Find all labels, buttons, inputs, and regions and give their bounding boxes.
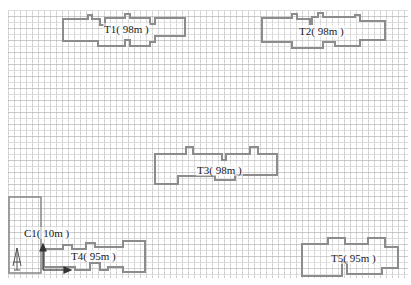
north-arrow-icon	[13, 248, 21, 270]
building-t4-label: T4( 95m )	[70, 250, 117, 262]
building-t5-label: T5( 95m )	[330, 252, 377, 264]
building-t2-label: T2( 98m )	[298, 25, 345, 37]
building-t1-label: T1( 98m )	[103, 23, 150, 35]
building-outlines	[0, 0, 411, 285]
site-plan-canvas: T1( 98m ) T2( 98m ) T3( 98m ) T4( 95m ) …	[0, 0, 411, 285]
crane-c1-label: C1( 10m )	[23, 227, 70, 239]
building-t3-label: T3( 98m )	[196, 164, 243, 176]
